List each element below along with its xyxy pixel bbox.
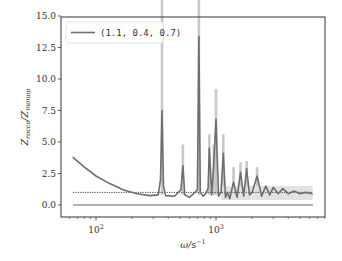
data-series — [73, 36, 313, 199]
x-axis-ticks: 102103 — [69, 217, 324, 235]
y-tick-label: 15.0 — [36, 11, 56, 21]
y-tick-label: 10.0 — [36, 74, 56, 84]
x-tick-label: 102 — [88, 223, 104, 235]
y-tick-label: 12.5 — [36, 43, 56, 53]
x-tick-label: 103 — [208, 223, 224, 235]
y-tick-label: 5.0 — [42, 137, 57, 147]
legend: (1.1, 0.4, 0.7) — [66, 22, 181, 43]
x-axis-label: ω/s−1 — [180, 238, 206, 250]
y-tick-label: 0.0 — [42, 200, 57, 210]
y-axis-label: Zrocco/Zmonop — [19, 88, 32, 147]
chart-figure: 0.02.55.07.510.012.515.0 102103 Zrocco/Z… — [0, 0, 342, 261]
series-line — [73, 36, 313, 199]
y-axis-ticks: 0.02.55.07.510.012.515.0 — [36, 11, 61, 210]
y-tick-label: 2.5 — [42, 169, 57, 179]
y-tick-label: 7.5 — [42, 106, 57, 116]
legend-entry: (1.1, 0.4, 0.7) — [100, 28, 181, 38]
